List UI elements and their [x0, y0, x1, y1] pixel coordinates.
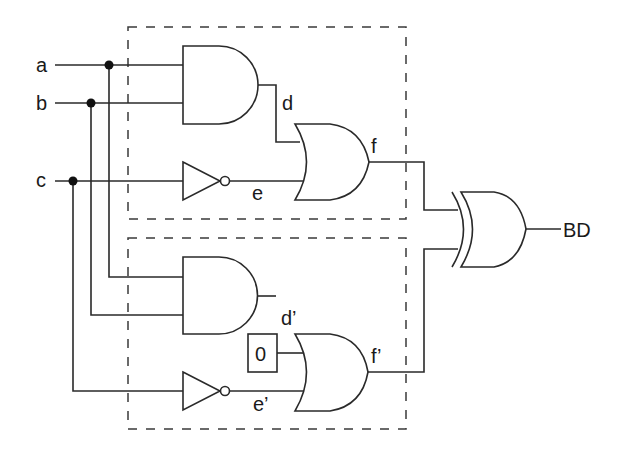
not-gate-1-bubble: [221, 177, 230, 186]
signal-label-f-prime: f’: [371, 345, 381, 367]
and-gate-1: [183, 46, 258, 124]
output-label: BD: [563, 219, 591, 241]
constant-zero-label: 0: [255, 343, 266, 365]
not-gate-1: [183, 162, 220, 200]
signal-label-e: e: [252, 182, 263, 204]
input-label-c: c: [36, 169, 46, 191]
junction-dot-c: [69, 177, 78, 186]
or-gate-2: [295, 334, 368, 411]
signal-label-f: f: [371, 135, 377, 157]
junction-dot-a: [105, 61, 114, 70]
logic-circuit-diagram: a b c d e f d’ 0 e’: [0, 0, 618, 457]
upper-circuit-boundary: [128, 27, 406, 219]
xor-gate: [452, 192, 526, 267]
or-gate-1: [295, 124, 369, 200]
input-label-b: b: [36, 92, 47, 114]
input-label-a: a: [36, 54, 48, 76]
not-gate-2-bubble: [221, 387, 230, 396]
input-wires: [55, 65, 183, 391]
and-gate-2: [183, 257, 258, 334]
signal-label-d-prime: d’: [281, 307, 297, 329]
junction-dot-b: [87, 99, 96, 108]
signal-label-e-prime: e’: [253, 393, 269, 415]
wire-d: [258, 85, 300, 142]
wire-f-prime: [368, 249, 458, 372]
wire-f: [369, 162, 458, 210]
not-gate-2: [183, 372, 220, 410]
signal-label-d: d: [282, 92, 293, 114]
